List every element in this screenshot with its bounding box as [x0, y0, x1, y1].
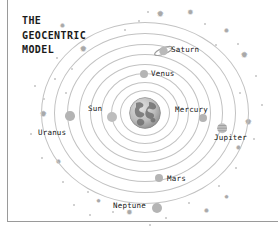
- planet-jupiter: [217, 119, 227, 129]
- star-dot: [41, 157, 42, 158]
- sparkle-icon: ✹: [241, 51, 249, 60]
- star-dot: [147, 11, 148, 12]
- planet-neptune: [152, 203, 162, 213]
- sparkle-icon: ✹: [224, 28, 230, 35]
- star-dot: [34, 85, 35, 86]
- sparkle-icon: ✹: [224, 194, 229, 200]
- earth-globe: [129, 97, 161, 129]
- star-dot: [30, 133, 32, 135]
- label-venus: Venus: [151, 69, 175, 78]
- star-dot: [62, 181, 63, 182]
- star-dot: [56, 57, 57, 58]
- label-mercury: Mercury: [175, 105, 208, 114]
- star-dot: [89, 214, 90, 215]
- label-sun: Sun: [88, 104, 102, 113]
- star-dot: [112, 211, 114, 213]
- label-neptune: Neptune: [113, 201, 146, 210]
- star-dot: [253, 138, 255, 140]
- orbit-system: ✹✹✹✹✹✹✹✹✹✹✹✹✹✹SunMercuryVenusMarsJupiter…: [0, 0, 278, 230]
- star-dot: [237, 43, 238, 44]
- label-uranus: Uranus: [38, 128, 66, 137]
- star-dot: [261, 104, 262, 105]
- sparkle-icon: ✹: [126, 209, 133, 217]
- star-dot: [218, 185, 220, 187]
- label-saturn: Saturn: [171, 45, 199, 54]
- star-dot: [87, 191, 89, 193]
- sparkle-icon: ✹: [204, 208, 210, 215]
- star-dot: [255, 75, 257, 77]
- sparkle-icon: ✹: [187, 9, 194, 17]
- star-dot: [149, 224, 150, 225]
- star-dot: [47, 37, 49, 39]
- star-dot: [235, 167, 236, 168]
- geocentric-model-illustration: THE GEOCENTRIC MODEL ✹✹✹✹✹✹✹✹✹✹✹✹✹✹SunMe…: [0, 0, 278, 230]
- sun-body: [107, 112, 117, 122]
- star-dot: [73, 204, 74, 205]
- label-jupiter: Jupiter: [214, 133, 247, 142]
- sparkle-icon: ✹: [96, 198, 101, 204]
- star-dot: [165, 217, 166, 218]
- planet-uranus: [65, 111, 75, 121]
- star-dot: [204, 23, 205, 24]
- planet-mercury: [199, 114, 207, 122]
- sparkle-icon: ✹: [157, 10, 165, 19]
- star-dot: [73, 38, 74, 39]
- sparkle-icon: ✹: [60, 23, 66, 30]
- star-dot: [188, 202, 189, 203]
- label-mars: Mars: [167, 174, 186, 183]
